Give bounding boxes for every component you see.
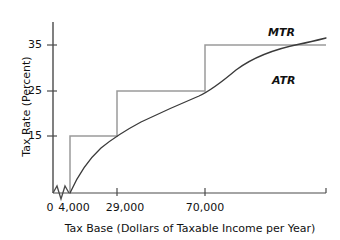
x-tick-label-4000: 4,000 — [49, 201, 99, 214]
series-label-mtr: MTR — [268, 26, 295, 39]
chart-figure: 35 25 15 0 4,000 29,000 70,000 Tax Rate … — [0, 0, 340, 240]
atr-curve-line — [70, 38, 326, 193]
series-label-atr: ATR — [272, 74, 295, 87]
x-tick-label-29000: 29,000 — [97, 201, 153, 214]
y-axis-title: Tax Rate (Percent) — [20, 27, 33, 187]
x-axis-title: Tax Base (Dollars of Taxable Income per … — [40, 222, 340, 235]
x-tick-label-70000: 70,000 — [177, 201, 233, 214]
mtr-step-line — [70, 45, 326, 193]
